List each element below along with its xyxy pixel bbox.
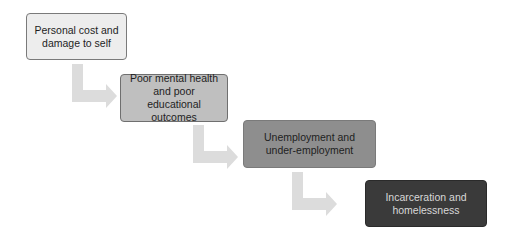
step-label: Unemployment and under-employment xyxy=(264,131,355,157)
step-box-incarceration: Incarceration and homelessness xyxy=(365,180,487,227)
step-label-line: Personal cost and xyxy=(34,24,118,37)
step-label-line: damage to self xyxy=(34,37,118,50)
step-label-line: and poor educational xyxy=(127,85,221,111)
step-label-line: Incarceration and xyxy=(385,191,466,204)
step-label-line: outcomes xyxy=(127,111,221,124)
elbow-arrow-icon xyxy=(191,125,241,169)
step-label-line: under-employment xyxy=(264,144,355,157)
step-label-line: Poor mental health xyxy=(127,72,221,85)
step-label: Personal cost and damage to self xyxy=(34,24,118,50)
step-box-poor-mental-health: Poor mental health and poor educational … xyxy=(120,74,228,122)
step-label-line: Unemployment and xyxy=(264,131,355,144)
step-box-unemployment: Unemployment and under-employment xyxy=(243,120,376,168)
elbow-arrow-icon xyxy=(70,64,120,106)
elbow-arrow-icon xyxy=(290,172,340,216)
step-label-line: homelessness xyxy=(385,204,466,217)
step-label: Poor mental health and poor educational … xyxy=(127,72,221,124)
step-box-personal-cost: Personal cost and damage to self xyxy=(26,13,127,60)
step-label: Incarceration and homelessness xyxy=(385,191,466,217)
